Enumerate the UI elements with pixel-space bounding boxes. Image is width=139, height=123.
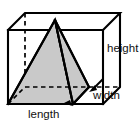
label-length: length	[28, 108, 59, 120]
pyramid-in-cube-svg: height width length	[0, 0, 139, 123]
pyramid-group	[8, 20, 89, 104]
label-width: width	[92, 89, 120, 101]
geometry-figure: height width length	[0, 0, 139, 123]
label-height: height	[107, 42, 139, 54]
